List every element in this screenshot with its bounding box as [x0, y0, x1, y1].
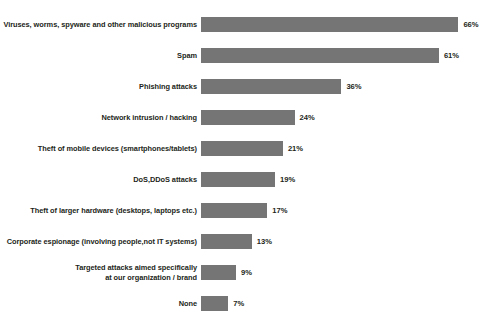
- bar-value-label: 7%: [233, 299, 244, 308]
- bar-container: 21%: [201, 133, 501, 164]
- bar-container: 61%: [201, 40, 501, 71]
- category-label: Phishing attacks: [0, 82, 201, 92]
- category-label: Theft of larger hardware (desktops, lapt…: [0, 206, 201, 216]
- bar-row: None7%: [0, 288, 501, 319]
- bar-row: DoS,DDoS attacks19%: [0, 164, 501, 195]
- bar-container: 19%: [201, 164, 501, 195]
- bar-row: Targeted attacks aimed specifically at o…: [0, 257, 501, 288]
- bar-value-label: 24%: [300, 113, 315, 122]
- bar-container: 17%: [201, 195, 501, 226]
- category-label: Viruses, worms, spyware and other malici…: [0, 20, 201, 30]
- bar: [201, 203, 267, 218]
- bar-value-label: 9%: [241, 268, 252, 277]
- bar-container: 7%: [201, 288, 501, 319]
- bar: [201, 265, 236, 280]
- bar: [201, 172, 275, 187]
- bar: [201, 79, 341, 94]
- bar-value-label: 17%: [272, 206, 287, 215]
- bar: [201, 234, 252, 249]
- bar-container: 13%: [201, 226, 501, 257]
- bar-row: Network intrusion / hacking24%: [0, 102, 501, 133]
- bar-row: Viruses, worms, spyware and other malici…: [0, 9, 501, 40]
- bar-row: Theft of larger hardware (desktops, lapt…: [0, 195, 501, 226]
- bar: [201, 141, 283, 156]
- category-label: None: [0, 299, 201, 309]
- category-label: Network intrusion / hacking: [0, 113, 201, 123]
- bar-row: Theft of mobile devices (smartphones/tab…: [0, 133, 501, 164]
- bar-container: 24%: [201, 102, 501, 133]
- category-label: Spam: [0, 51, 201, 61]
- bar-value-label: 66%: [463, 20, 478, 29]
- bar-container: 9%: [201, 257, 501, 288]
- bar-value-label: 36%: [346, 82, 361, 91]
- bar-value-label: 13%: [257, 237, 272, 246]
- category-label: Corporate espionage (involving people,no…: [0, 237, 201, 247]
- plot-area: Viruses, worms, spyware and other malici…: [0, 0, 501, 324]
- bar-row: Phishing attacks36%: [0, 71, 501, 102]
- bar: [201, 17, 458, 32]
- bar: [201, 296, 228, 311]
- bar: [201, 48, 439, 63]
- category-label: DoS,DDoS attacks: [0, 175, 201, 185]
- bar-container: 36%: [201, 71, 501, 102]
- bar-value-label: 19%: [280, 175, 295, 184]
- category-label: Theft of mobile devices (smartphones/tab…: [0, 144, 201, 154]
- bar-value-label: 61%: [444, 51, 459, 60]
- bar-row: Spam61%: [0, 40, 501, 71]
- category-label: Targeted attacks aimed specifically at o…: [0, 263, 201, 282]
- horizontal-bar-chart: Viruses, worms, spyware and other malici…: [0, 0, 501, 324]
- bar-row: Corporate espionage (involving people,no…: [0, 226, 501, 257]
- bar: [201, 110, 295, 125]
- bar-value-label: 21%: [288, 144, 303, 153]
- bar-container: 66%: [201, 9, 501, 40]
